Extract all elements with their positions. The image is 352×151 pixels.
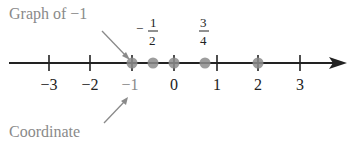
coordinate-label: Coordinate — [9, 123, 80, 140]
point-three-quarters — [200, 58, 211, 69]
graph-of-label: Graph of −1 — [9, 5, 87, 23]
point-neg1 — [127, 58, 138, 69]
tick-labels: −3 −2 −1 0 1 2 3 — [40, 76, 304, 93]
fraction-denominator: 4 — [200, 33, 207, 48]
tick-label-neg2: −2 — [81, 76, 98, 93]
tick-label-neg1: −1 — [121, 76, 138, 93]
fraction-sign: − — [136, 21, 143, 36]
fraction-numerator: 3 — [200, 15, 207, 30]
tick-label-1: 1 — [213, 76, 221, 93]
point-neg-half — [148, 58, 159, 69]
tick-label-3: 3 — [296, 76, 304, 93]
number-line-diagram: Graph of −1 − 1 2 3 4 −3 −2 −1 0 — [0, 0, 352, 151]
point-2 — [253, 58, 264, 69]
tick-label-2: 2 — [254, 76, 262, 93]
fraction-numerator: 1 — [150, 15, 157, 30]
tick-label-neg3: −3 — [40, 76, 57, 93]
coordinate-pointer-arrow — [104, 101, 125, 123]
fraction-label-three-quarters: 3 4 — [199, 15, 209, 48]
tick-label-0: 0 — [170, 76, 178, 93]
graph-pointer-arrow — [102, 31, 127, 57]
point-0 — [169, 58, 180, 69]
fraction-label-neg-half: − 1 2 — [136, 15, 158, 48]
fraction-denominator: 2 — [149, 33, 156, 48]
